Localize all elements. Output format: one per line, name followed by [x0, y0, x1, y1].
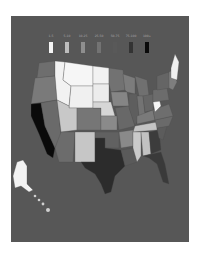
state-wisconsin — [123, 74, 135, 94]
state-new-mexico — [75, 132, 95, 162]
state-florida — [143, 152, 169, 184]
state-hawaii — [34, 195, 50, 212]
state-alaska — [13, 160, 33, 192]
state-arkansas — [119, 130, 133, 148]
state-wyoming — [69, 86, 93, 108]
state-colorado — [77, 108, 101, 130]
state-michigan — [135, 76, 149, 96]
state-montana — [63, 62, 93, 86]
us-map — [11, 16, 189, 242]
state-tennessee — [133, 122, 157, 132]
state-south-dakota — [93, 84, 109, 102]
map-panel: 1-5 5-10 10-25 25-50 50-75 75-100 100+ — [11, 16, 189, 242]
state-kansas — [101, 116, 117, 130]
state-iowa — [111, 92, 129, 106]
state-oregon — [31, 76, 57, 104]
state-maine — [171, 54, 179, 80]
state-pennsylvania — [153, 88, 169, 102]
state-washington — [37, 61, 55, 78]
state-minnesota — [109, 68, 125, 92]
state-north-dakota — [93, 66, 109, 84]
